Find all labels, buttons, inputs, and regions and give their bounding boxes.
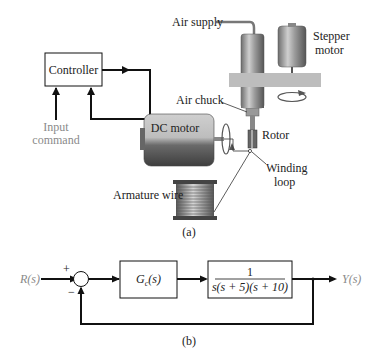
motor-feedback-line bbox=[91, 88, 146, 119]
input-command-label-2: command bbox=[32, 133, 79, 147]
arrowhead-up bbox=[87, 87, 95, 95]
air-chuck-cylinder-front bbox=[241, 87, 264, 108]
plant-numerator: 1 bbox=[247, 265, 253, 279]
stepper-motor-label-2: motor bbox=[315, 43, 344, 57]
air-chuck-label: Air chuck bbox=[176, 93, 224, 107]
winding-loop-leader bbox=[252, 152, 266, 164]
arrowhead-right bbox=[122, 66, 130, 74]
rotor-label: Rotor bbox=[262, 128, 289, 142]
figure-canvas: Controller Input command DC motor Air su… bbox=[0, 0, 378, 361]
arrowhead bbox=[112, 276, 120, 283]
winding-loop-label-2: loop bbox=[274, 175, 295, 189]
chuck-spindle bbox=[250, 116, 255, 130]
input-command-label: Input bbox=[43, 120, 69, 134]
plant-denominator: s(s + 5)(s + 10) bbox=[212, 280, 288, 294]
stepper-motor-label: Stepper bbox=[313, 29, 350, 43]
input-r-label: R(s) bbox=[19, 272, 40, 286]
sum-minus-sign: − bbox=[68, 285, 75, 299]
winding-arm bbox=[224, 139, 249, 151]
summing-junction bbox=[74, 272, 89, 287]
air-chuck-tip bbox=[246, 108, 259, 116]
output-y-label: Y(s) bbox=[342, 272, 361, 286]
sum-plus-sign: + bbox=[63, 262, 70, 276]
armature-wire-line bbox=[214, 152, 250, 212]
figure-b: R(s) + − Gc(s) 1 s(s + 5)(s + 10) Y(s) (… bbox=[19, 261, 361, 348]
arrowhead bbox=[329, 276, 337, 283]
arrowhead bbox=[200, 276, 208, 283]
stepper-motor bbox=[278, 26, 306, 67]
dc-motor-endcap bbox=[140, 128, 145, 150]
stepper-motor-nub bbox=[288, 23, 296, 27]
controller-label: Controller bbox=[49, 63, 98, 77]
stepper-shaft bbox=[291, 67, 293, 73]
arrowhead-up bbox=[52, 87, 60, 95]
dc-motor-label: DC motor bbox=[151, 121, 199, 135]
winding-loop-label: Winding bbox=[266, 161, 308, 175]
rotor-highlight bbox=[251, 130, 253, 148]
figure-a: Controller Input command DC motor Air su… bbox=[32, 15, 349, 239]
figure-b-caption: (b) bbox=[182, 334, 196, 348]
armature-wire-label: Armature wire bbox=[113, 188, 183, 202]
mounting-plate bbox=[229, 73, 321, 87]
gc-block-label: Gc(s) bbox=[136, 272, 161, 288]
arrowhead bbox=[78, 287, 85, 295]
controller-to-motor-line bbox=[102, 70, 150, 118]
air-supply-label: Air supply bbox=[172, 15, 223, 29]
figure-a-caption: (a) bbox=[182, 225, 195, 239]
